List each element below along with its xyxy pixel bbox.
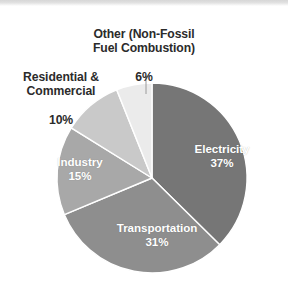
label-transportation-value: 31% [92,235,222,249]
pie-chart-figure: Other (Non-Fossil Fuel Combustion) 6% Re… [0,0,288,291]
label-rescom-value: 10% [2,113,120,128]
label-transportation-name: Transportation [117,221,197,234]
label-rescom-line2: Commercial [2,84,120,99]
label-residential-commercial: Residential & Commercial 10% [2,55,120,143]
label-other-line1: Other (Non-Fossil [93,27,194,41]
label-electricity: Electricity 37% [176,142,268,170]
label-industry-value: 15% [38,169,122,183]
label-transportation: Transportation 31% [92,221,222,249]
label-industry-name: Industry [57,155,102,168]
label-electricity-name: Electricity [195,142,250,155]
label-other-line2: Fuel Combustion) [62,41,226,56]
label-industry: Industry 15% [38,155,122,183]
label-rescom-line1: Residential & [23,70,99,84]
label-electricity-value: 37% [176,156,268,170]
